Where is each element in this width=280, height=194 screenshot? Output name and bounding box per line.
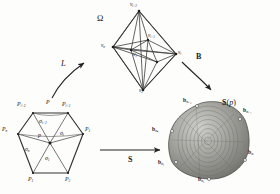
graph-symbol-omega: Ω (97, 14, 103, 23)
support-body-vertex-bi2: bσᵢ₊₂ (183, 98, 191, 104)
fan-vertex-P2: P2 (65, 177, 70, 183)
fan-vertex-Pi1: Pi+1 (62, 102, 70, 108)
support-body-vertex-bi: bσᵢ (248, 150, 253, 156)
graph-vertex-vi: vi (178, 50, 181, 56)
fan-center-label: p (38, 133, 41, 139)
fan-apex-label: P (46, 100, 50, 106)
support-body-vertex-bi1: bσᵢ₊₁ (243, 108, 251, 114)
arrow-B (182, 62, 211, 90)
fan-vertex-P1-right: P1 (85, 127, 90, 133)
graph-vertex-vi2: vi+2 (130, 2, 137, 8)
arrow-L (52, 63, 84, 98)
graph-vertex-vn: vn (101, 43, 105, 49)
figure-vector-layer (0, 0, 280, 194)
support-body-shape (169, 102, 250, 179)
support-body-vertex-b2: bσ₂ (198, 177, 204, 183)
fan-sector-sigma-i: σi (60, 131, 64, 137)
support-body-vertex-b1: bσ₁ (158, 160, 164, 166)
graph-vertex-vi1: vi+1 (148, 33, 155, 39)
fan-vertex-Pi2: Pi+2 (17, 102, 25, 108)
arrow-label-S: S (128, 156, 132, 164)
support-body-symbol: S(p) (222, 99, 236, 107)
fan-sector-sigma-i1: σi+1 (39, 119, 47, 125)
fan-sector-sigma-1: σ1 (45, 156, 50, 162)
fan-vertex-P1-bottom: P1 (28, 177, 33, 183)
graph-edges (113, 11, 176, 90)
fan-center-dot (49, 142, 52, 145)
fan-curved-chords (18, 113, 83, 137)
graph-vertex-v1: v1 (133, 52, 137, 58)
arrow-label-L: L (61, 59, 66, 68)
arrow-label-B: B (196, 53, 201, 61)
fan-vertex-Pn: Pn (2, 127, 7, 133)
support-body-vertex-bn: bσₙ (152, 127, 158, 133)
fan-sector-sigma-n: σn (25, 147, 30, 153)
figure-canvas: Pn Pi+2 Pi+1 P1 P2 P1 P p σi+1 σi σn σ1 … (0, 0, 280, 194)
graph-vertex-v2: v2 (139, 88, 143, 94)
